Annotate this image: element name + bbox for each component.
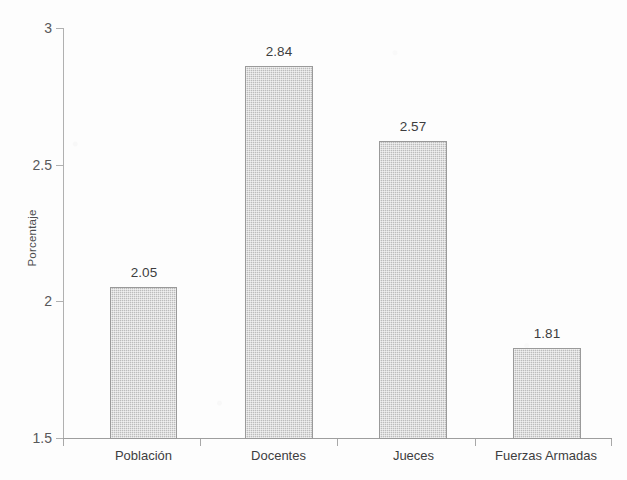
category-label-jueces: Jueces: [351, 449, 476, 462]
bar-value-fuerzas-armadas: 1.81: [497, 327, 597, 341]
bar-chart: 3 2.5 2 1.5 Porcentaje 2.05 2.84 2.57 1.…: [0, 0, 627, 480]
y-tick-label-2point5-wrap: 2.5: [6, 158, 52, 172]
bar-value-docentes: 2.84: [229, 45, 329, 59]
bar-fuerzas-armadas: [513, 348, 581, 439]
x-tick-mark-2: [337, 439, 338, 446]
y-axis-title: Porcentaje: [26, 178, 38, 298]
category-label-poblacion: Población: [81, 449, 206, 462]
category-label-fuerzas-armadas: Fuerzas Armadas: [480, 449, 612, 462]
y-tick-label-3-wrap: 3: [6, 21, 52, 35]
x-tick-mark-0: [63, 439, 64, 446]
y-tick-label-3: 3: [12, 21, 52, 35]
category-label-docentes: Docentes: [216, 449, 341, 462]
y-tick-mark-2: [56, 301, 64, 302]
plot-area: 3 2.5 2 1.5 Porcentaje 2.05 2.84 2.57 1.…: [0, 0, 627, 480]
y-tick-label-2point5: 2.5: [12, 158, 52, 172]
bar-docentes: [245, 66, 313, 439]
x-tick-mark-3: [475, 439, 476, 446]
y-tick-label-1point5-wrap: 1.5: [6, 431, 52, 445]
y-axis-line: [63, 28, 64, 439]
y-tick-label-1point5: 1.5: [12, 431, 52, 445]
bar-value-poblacion: 2.05: [94, 266, 194, 280]
bar-jueces: [379, 141, 447, 439]
x-tick-mark-1: [200, 439, 201, 446]
bar-poblacion: [110, 287, 177, 439]
y-tick-mark-2point5: [56, 165, 64, 166]
y-tick-mark-3: [56, 28, 64, 29]
bar-value-jueces: 2.57: [363, 120, 463, 134]
x-tick-mark-4: [611, 439, 612, 446]
